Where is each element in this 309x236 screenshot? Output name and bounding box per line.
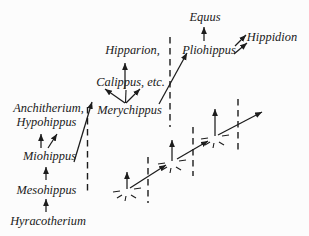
label-miohippus: Miohippus: [22, 149, 76, 163]
phylogeny-diagram: Equus Hippidion Pliohippus Hipparion, Ca…: [0, 0, 309, 236]
arrow-pliohippus-to-hippidion-upper: [235, 35, 246, 46]
label-hipparion: Hipparion,: [104, 43, 160, 57]
label-hyracotherium: Hyracotherium: [9, 214, 86, 228]
arrow-miohippus-to-anchitherium-right: [48, 134, 57, 148]
label-equus: Equus: [189, 10, 221, 24]
radiation-burst-2: [158, 160, 186, 173]
radiation-burst-3: [201, 135, 229, 148]
arrow-merychippus-fan-middle: [126, 90, 127, 103]
label-merychippus: Merychippus: [96, 103, 162, 117]
label-anchitherium: Anchitherium,: [12, 101, 84, 115]
radiation-burst-1: [113, 188, 141, 201]
arrow-trend-segment-3: [218, 112, 262, 135]
label-hippidion: Hippidion: [246, 30, 297, 44]
arrow-merychippus-fan-left: [105, 89, 125, 103]
arrow-merychippus-fan-right: [126, 89, 140, 103]
label-mesohippus: Mesohippus: [16, 183, 77, 197]
label-hypohippus: Hypohippus: [16, 115, 77, 129]
diagram-canvas: Equus Hippidion Pliohippus Hipparion, Ca…: [0, 0, 309, 236]
label-calippus: Calippus, etc.: [96, 75, 165, 89]
label-pliohippus: Pliohippus: [181, 43, 236, 57]
